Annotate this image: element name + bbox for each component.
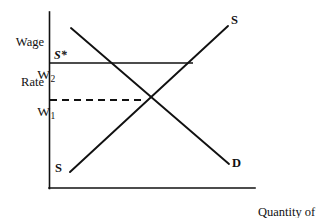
x-axis-title: Quantity of Labor: [258, 180, 332, 218]
figure-canvas: Wage Rate Quantity of Labor W2 W1 S* S S…: [0, 0, 335, 218]
supply-curve-label-bottom: S: [55, 162, 62, 175]
wage-tick-w1: W1: [24, 91, 55, 134]
demand-curve: [71, 28, 229, 164]
demand-curve-label: D: [232, 157, 241, 170]
wage-tick-w1-base: W: [37, 104, 50, 119]
x-axis-title-line1: Quantity of: [258, 206, 332, 218]
wage-tick-w2-subscript: 2: [51, 74, 56, 84]
supply-curve-label-top: S: [231, 14, 238, 27]
wage-tick-w1-subscript: 1: [51, 111, 56, 121]
minimum-wage-label: S*: [54, 49, 67, 62]
y-axis-title-line1: Wage: [6, 36, 44, 49]
wage-tick-w2-base: W: [37, 67, 50, 82]
